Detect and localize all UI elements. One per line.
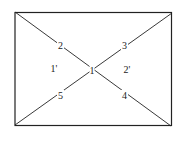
region-label-1-prime: 1' <box>51 63 58 74</box>
rectangle-diagonals-diagram: 1 2 3 4 5 1' 2' <box>0 0 185 141</box>
point-label-4: 4 <box>122 90 127 101</box>
point-label-5: 5 <box>58 90 63 101</box>
region-label-2-prime: 2' <box>124 64 131 75</box>
point-label-2: 2 <box>58 40 63 51</box>
center-label: 1 <box>90 65 95 76</box>
point-label-3: 3 <box>122 40 127 51</box>
